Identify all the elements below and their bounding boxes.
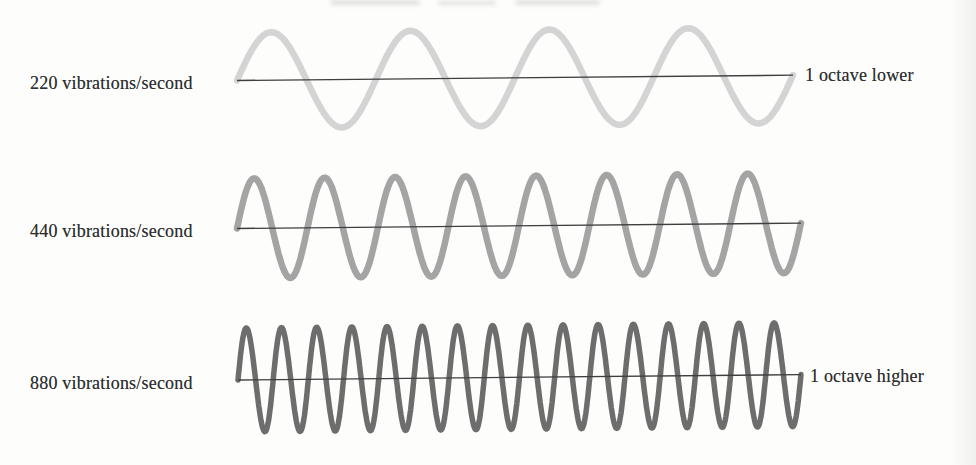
- frequency-label-880: 880 vibrations/second: [30, 371, 193, 395]
- scan-artifact: [515, 0, 600, 5]
- scan-edge-shadow: [950, 0, 976, 465]
- scan-artifact: [330, 0, 420, 5]
- octave-waveform-diagram: 220 vibrations/second 1 octave lower 440…: [0, 0, 976, 465]
- scan-artifact: [438, 1, 496, 5]
- octave-higher-label: 1 octave higher: [810, 364, 924, 388]
- sine-wave-220: [236, 22, 793, 132]
- frequency-label-220: 220 vibrations/second: [30, 71, 193, 95]
- sine-wave-440: [236, 168, 801, 282]
- frequency-label-440: 440 vibrations/second: [30, 219, 193, 243]
- octave-lower-label: 1 octave lower: [805, 63, 914, 87]
- sine-wave-880: [237, 319, 801, 436]
